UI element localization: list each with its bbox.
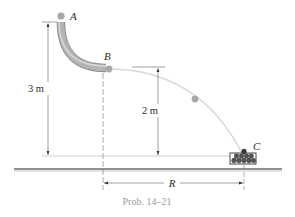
ground <box>14 169 282 171</box>
projectile-diagram: A B 3 m 2 m <box>0 0 295 217</box>
figure-caption: Prob. 14–21 <box>123 196 172 207</box>
label-a: A <box>69 10 77 22</box>
ball-at-a <box>57 12 64 19</box>
label-r: R <box>168 177 176 189</box>
trajectory-path <box>110 69 243 155</box>
label-3m: 3 m <box>28 83 44 94</box>
label-2m: 2 m <box>142 105 158 116</box>
label-c: C <box>253 140 261 152</box>
ball-in-flight <box>192 96 199 103</box>
label-b: B <box>104 50 111 62</box>
curved-tube <box>59 22 106 68</box>
dimension-3m <box>42 22 245 156</box>
ball-at-b <box>106 66 113 73</box>
